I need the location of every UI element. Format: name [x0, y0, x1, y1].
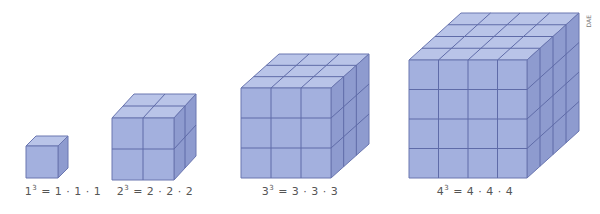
cube-4-formula: 43 = 4 · 4 · 4 [437, 185, 514, 198]
formula-exponent: 3 [444, 184, 449, 192]
cube-2 [112, 94, 196, 180]
formula-product: = 1 · 1 · 1 [37, 185, 101, 198]
cube-3-formula: 33 = 3 · 3 · 3 [262, 185, 339, 198]
formula-product: = 3 · 3 · 3 [274, 185, 338, 198]
cube-1-formula: 13 = 1 · 1 · 1 [25, 185, 102, 198]
cube-2-formula: 23 = 2 · 2 · 2 [117, 185, 194, 198]
cube-3 [241, 54, 369, 178]
cube-4 [409, 13, 579, 178]
formula-base: 1 [25, 185, 33, 198]
formula-exponent: 3 [124, 184, 129, 192]
formula-base: 2 [117, 185, 125, 198]
formula-exponent: 3 [32, 184, 37, 192]
formula-base: 3 [262, 185, 270, 198]
cube-1 [26, 136, 68, 178]
cube-diagram [0, 0, 600, 214]
formula-product: = 4 · 4 · 4 [449, 185, 513, 198]
formula-exponent: 3 [269, 184, 274, 192]
formula-product: = 2 · 2 · 2 [129, 185, 193, 198]
formula-base: 4 [437, 185, 445, 198]
credit-text: DAE [585, 15, 592, 27]
